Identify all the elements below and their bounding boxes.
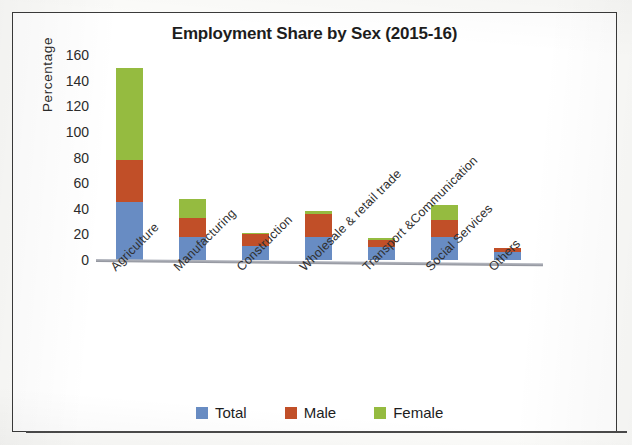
y-tick-label: 160: [66, 47, 89, 63]
legend-label: Female: [393, 404, 443, 421]
y-axis-title: Percentage: [40, 37, 55, 112]
y-tick-label: 60: [73, 175, 89, 191]
bar-segment-male[interactable]: [116, 160, 143, 202]
chart-legend: TotalMaleFemale: [196, 404, 443, 421]
legend-item-male[interactable]: Male: [285, 404, 337, 421]
legend-label: Total: [215, 404, 247, 421]
legend-swatch-icon: [374, 407, 386, 419]
bar-group: [476, 55, 539, 260]
legend-swatch-icon: [196, 407, 208, 419]
chart-title: Employment Share by Sex (2015-16): [12, 24, 617, 44]
scanned-page: Employment Share by Sex (2015-16) Percen…: [0, 0, 632, 445]
legend-item-female[interactable]: Female: [374, 404, 443, 421]
legend-swatch-icon: [285, 407, 297, 419]
y-tick-label: 120: [66, 98, 89, 114]
legend-label: Male: [304, 404, 337, 421]
bar-segment-female[interactable]: [116, 68, 143, 160]
y-tick-label: 20: [73, 226, 89, 242]
legend-item-total[interactable]: Total: [196, 404, 247, 421]
y-tick-label: 100: [66, 124, 89, 140]
chart-figure: Employment Share by Sex (2015-16) Percen…: [12, 12, 617, 432]
bar-segment-female[interactable]: [179, 199, 206, 218]
y-tick-label: 0: [81, 252, 89, 268]
y-tick-label: 140: [66, 73, 89, 89]
y-tick-label: 80: [73, 150, 89, 166]
legend-divider: [26, 431, 627, 433]
y-tick-label: 40: [73, 201, 89, 217]
